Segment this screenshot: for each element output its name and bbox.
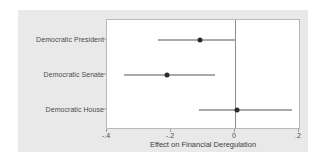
chart-figure: Democratic President Democratic Senate D… [18, 10, 308, 152]
point-marker-senate [164, 73, 169, 78]
point-marker-house [234, 108, 239, 113]
y-axis-labels: Democratic President Democratic Senate D… [18, 10, 104, 152]
plot-panel [106, 19, 300, 129]
confidence-interval-senate [124, 75, 215, 76]
x-tick-label-0: -.4 [102, 132, 110, 139]
point-marker-president [197, 38, 202, 43]
plot-area [107, 20, 299, 128]
x-tick-label-1: -.2 [166, 132, 174, 139]
x-tick-label-3: .2 [295, 132, 301, 139]
confidence-interval-house [199, 110, 292, 111]
x-tick-label-2: 0 [232, 132, 236, 139]
y-axis-label-president: Democratic President [36, 36, 104, 43]
y-axis-label-house: Democratic House [46, 106, 104, 113]
y-axis-label-senate: Democratic Senate [44, 71, 104, 78]
x-axis-title: Effect on Financial Deregulation [106, 140, 300, 149]
